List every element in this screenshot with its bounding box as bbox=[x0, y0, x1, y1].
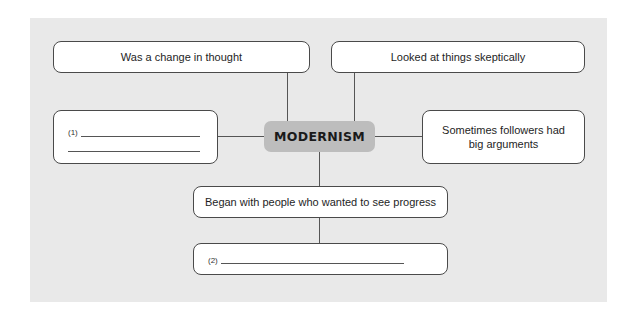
center-label: MODERNISM bbox=[274, 129, 365, 144]
connector-left bbox=[218, 136, 264, 137]
connector-bottom-2 bbox=[319, 218, 320, 243]
connector-right bbox=[375, 136, 422, 137]
node-label: Began with people who wanted to see prog… bbox=[205, 195, 436, 209]
answer-line-1[interactable] bbox=[81, 136, 200, 137]
node-label: Was a change in thought bbox=[121, 50, 242, 64]
node-change-in-thought: Was a change in thought bbox=[53, 41, 310, 73]
center-node: MODERNISM bbox=[264, 121, 375, 152]
connector-bottom bbox=[319, 152, 320, 186]
node-blank-1: (1) bbox=[53, 110, 218, 164]
node-big-arguments: Sometimes followers had big arguments bbox=[422, 110, 585, 164]
connector-top-left bbox=[287, 73, 288, 121]
node-began-with-progress: Began with people who wanted to see prog… bbox=[193, 186, 448, 218]
answer-line-1b[interactable] bbox=[68, 151, 200, 152]
node-label: Sometimes followers had big arguments bbox=[441, 123, 566, 151]
answer-line-2[interactable] bbox=[221, 263, 404, 264]
blank-number: (2) bbox=[208, 254, 218, 268]
node-skeptically: Looked at things skeptically bbox=[331, 41, 585, 73]
connector-top-right bbox=[354, 73, 355, 121]
node-blank-2: (2) bbox=[193, 243, 448, 275]
node-label: Looked at things skeptically bbox=[391, 50, 526, 64]
blank-number: (1) bbox=[68, 126, 78, 140]
